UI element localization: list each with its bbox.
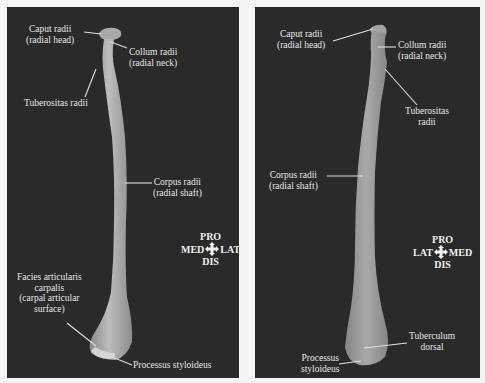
compass-right: LAT [220, 244, 239, 255]
label-caput-radii: Caput radii (radial head) [277, 29, 325, 50]
label-caput-radii: Caput radii (radial head) [26, 24, 74, 45]
compass-left: MED [181, 244, 204, 255]
compass-left: LAT [413, 247, 433, 258]
compass-proximal: PRO [181, 231, 239, 242]
radius-bone-anterior [7, 7, 239, 378]
label-corpus-radii: Corpus radii (radial shaft) [153, 177, 202, 198]
label-collum-radii: Collum radii (radial neck) [398, 40, 446, 61]
radius-bone-posterior [255, 7, 480, 378]
four-way-arrow-icon [205, 242, 219, 256]
panel-posterior-view: Caput radii (radial head) Collum radii (… [255, 7, 480, 378]
label-processus-styloideus: Processus styloideus [133, 360, 211, 371]
label-tuberositas-radii: Tuberositas radii [24, 98, 88, 109]
orientation-compass: PRO MED LAT DIS [181, 231, 239, 267]
compass-proximal: PRO [413, 234, 472, 245]
orientation-compass: PRO LAT MED DIS [413, 234, 472, 270]
label-tuberositas-radii: Tuberositas radii [405, 106, 449, 127]
label-processus-styloideus: Processus styloideus [301, 353, 340, 374]
compass-distal: DIS [181, 256, 239, 267]
label-collum-radii: Collum radii (radial neck) [129, 47, 177, 68]
label-facies-articularis-carpalis: Facies articularis carpalis (carpal arti… [17, 272, 82, 314]
label-tuberculum-dorsal: Tuberculum dorsal [409, 331, 455, 352]
panel-anterior-view: Caput radii (radial head) Collum radii (… [7, 7, 239, 378]
compass-right: MED [449, 247, 472, 258]
label-corpus-radii: Corpus radii (radial shaft) [269, 170, 318, 191]
compass-distal: DIS [413, 259, 472, 270]
four-way-arrow-icon [434, 245, 448, 259]
